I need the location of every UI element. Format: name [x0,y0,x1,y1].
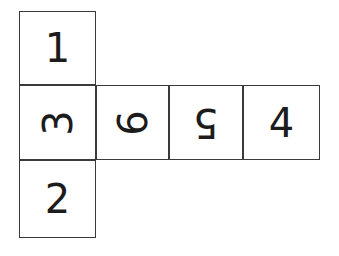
net-face-middle-second[interactable]: 6 [96,85,169,160]
face-number-top: 1 [45,28,70,68]
face-number-middle-third: 5 [193,103,218,143]
net-face-middle-right[interactable]: 4 [243,85,320,160]
face-number-middle-left: 3 [37,110,77,135]
net-face-bottom[interactable]: 2 [19,160,96,238]
face-number-bottom: 2 [45,179,70,219]
net-face-middle-third[interactable]: 5 [169,85,243,160]
face-number-middle-right: 4 [269,103,294,143]
face-number-middle-second: 6 [112,110,152,135]
net-face-top[interactable]: 1 [19,11,96,85]
net-face-middle-left[interactable]: 3 [19,85,96,160]
cube-net-diagram: 136542 [0,0,339,256]
